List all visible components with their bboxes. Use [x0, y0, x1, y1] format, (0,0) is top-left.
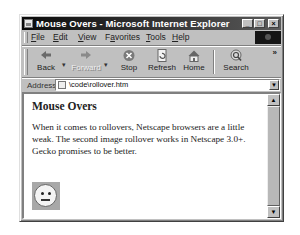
title-bar[interactable]: Mouse Overs - Microsoft Internet Explore…	[22, 17, 281, 30]
menu-tools[interactable]: Tools	[146, 31, 166, 44]
toolbar-overflow-chevron[interactable]: »	[273, 48, 277, 57]
page-content: Mouse Overs When it comes to rollovers, …	[22, 92, 281, 219]
stop-button[interactable]: Stop	[113, 48, 145, 76]
toolbar-grip[interactable]	[24, 49, 28, 75]
minimize-button[interactable]: _	[242, 19, 253, 28]
browser-window: Mouse Overs - Microsoft Internet Explore…	[19, 14, 284, 222]
back-arrow-icon	[39, 49, 53, 62]
menu-file[interactable]: File	[31, 31, 45, 44]
back-button[interactable]: Back	[30, 48, 62, 76]
window-title: Mouse Overs - Microsoft Internet Explore…	[36, 17, 230, 30]
menu-help[interactable]: Help	[172, 31, 189, 44]
menu-edit[interactable]: Edit	[53, 31, 68, 44]
address-dropdown-button[interactable]: ▼	[269, 80, 279, 90]
page-heading: Mouse Overs	[32, 100, 266, 112]
forward-arrow-icon	[79, 49, 93, 62]
address-bar: Address \code\rollover.htm ▼	[22, 77, 281, 92]
ie-throbber-logo	[255, 31, 281, 44]
search-button[interactable]: Search	[220, 48, 252, 76]
page-icon	[58, 81, 66, 89]
stop-icon	[122, 49, 136, 62]
back-dropdown[interactable]: ▾	[62, 61, 66, 69]
address-url[interactable]: \code\rollover.htm	[69, 80, 128, 90]
address-input[interactable]: \code\rollover.htm ▼	[55, 79, 280, 91]
scroll-thumb[interactable]	[267, 106, 280, 206]
maximize-button[interactable]: □	[254, 19, 265, 28]
forward-dropdown[interactable]: ▾	[104, 61, 108, 69]
refresh-button[interactable]: Refresh	[146, 48, 178, 76]
home-button[interactable]: Home	[178, 48, 210, 76]
ie-app-icon[interactable]	[24, 19, 33, 28]
vertical-scrollbar[interactable]: ▲ ▼	[267, 94, 280, 218]
toolbar-separator	[213, 50, 215, 74]
standard-toolbar: Back ▾ Forward ▾ Stop Refresh Home	[22, 45, 281, 77]
rollover-image[interactable]	[32, 182, 60, 210]
document-body: Mouse Overs When it comes to rollovers, …	[24, 94, 266, 218]
refresh-icon	[155, 49, 169, 62]
menubar-grip[interactable]	[24, 32, 28, 43]
scroll-up-button[interactable]: ▲	[267, 94, 280, 106]
menu-view[interactable]: View	[78, 31, 96, 44]
menu-bar: File Edit View Favorites Tools Help	[22, 31, 281, 44]
neutral-face-icon	[34, 184, 57, 207]
search-icon	[229, 49, 243, 62]
address-label: Address	[27, 80, 56, 91]
scroll-down-button[interactable]: ▼	[267, 206, 280, 218]
home-icon	[187, 49, 201, 62]
menu-favorites[interactable]: Favorites	[105, 31, 140, 44]
forward-button[interactable]: Forward	[70, 48, 102, 76]
close-button[interactable]: ×	[268, 19, 279, 28]
page-paragraph: When it comes to rollovers, Netscape bro…	[32, 121, 266, 157]
